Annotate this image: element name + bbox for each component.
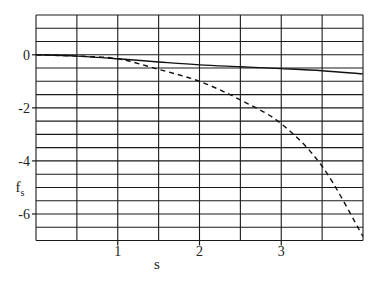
x-tick-label: 2 — [196, 244, 203, 259]
y-tick-label: 0 — [23, 48, 30, 63]
chart: 1230-2-4-6 s fs — [0, 0, 381, 284]
x-axis-label: s — [154, 256, 160, 272]
y-tick-label: -4 — [18, 154, 30, 169]
grid — [36, 15, 363, 241]
y-axis-label: fs — [16, 179, 25, 198]
y-tick-label: -2 — [18, 101, 30, 116]
x-tick-label: 1 — [114, 244, 121, 259]
y-tick-label: -6 — [18, 207, 30, 222]
axis-labels: s fs — [16, 179, 161, 272]
x-tick-label: 3 — [278, 244, 285, 259]
